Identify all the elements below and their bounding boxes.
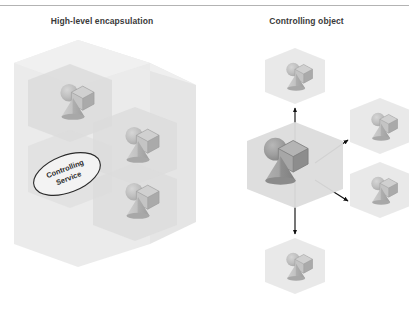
central-controlling-hexagon xyxy=(247,122,343,208)
diagram-canvas: High-level encapsulation Controlling obj… xyxy=(0,0,409,313)
satellite-hexagon-top xyxy=(265,48,325,104)
satellite-hexagon-lower-right xyxy=(350,162,409,218)
satellite-hexagon-upper-right xyxy=(350,98,409,154)
diagram-graphic: Controlling Service xyxy=(0,0,409,313)
satellite-hexagon-bottom xyxy=(265,238,325,294)
right-panel-controlling-object xyxy=(247,48,409,294)
left-panel-encapsulation-prism: Controlling Service xyxy=(14,40,196,267)
